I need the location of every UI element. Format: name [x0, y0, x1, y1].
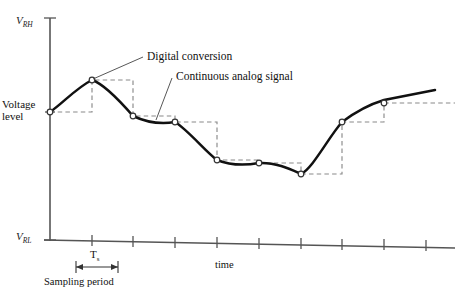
sample-point	[256, 160, 262, 166]
time-axis-label: time	[215, 259, 234, 270]
sampling-period-symbol: Ts	[90, 249, 99, 264]
sample-point	[172, 119, 178, 125]
continuous-analog-signal-label: Continuous analog signal	[176, 70, 293, 82]
voltage-level-label: Voltage level	[2, 99, 35, 122]
sample-point	[89, 77, 95, 83]
voltage-level-line1: Voltage	[2, 99, 35, 111]
sample-point-markers	[47, 77, 387, 177]
sample-point	[298, 171, 304, 177]
x-axis-ticks	[92, 235, 426, 251]
digital-conversion-label: Digital conversion	[147, 50, 232, 62]
sample-point	[339, 119, 345, 125]
sample-point	[381, 100, 387, 106]
digital-conversion-leader	[93, 57, 143, 79]
x-axis	[44, 240, 455, 248]
y-axis-bottom-label: VRL	[16, 231, 32, 245]
sampling-period-caption: Sampling period	[44, 276, 114, 287]
sample-point	[130, 113, 136, 119]
continuous-analog-leader	[156, 78, 172, 120]
sample-point	[214, 157, 220, 163]
y-axis-top-label: VRH	[16, 15, 33, 29]
sample-point	[47, 109, 53, 115]
voltage-level-line2: level	[2, 111, 35, 123]
